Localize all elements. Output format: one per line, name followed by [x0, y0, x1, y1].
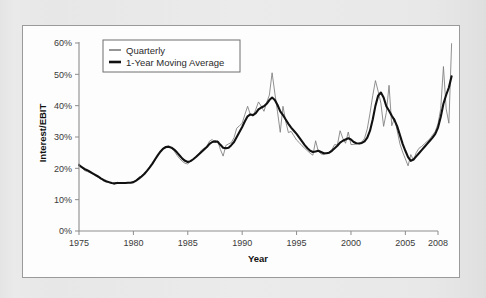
- x-tick-label: 1985: [178, 238, 198, 248]
- y-axis-ticks: 0%10%20%30%40%50%60%: [54, 38, 79, 236]
- x-axis-ticks: 19751980198519901995200020052008: [69, 231, 448, 248]
- y-tick-label: 50%: [54, 70, 72, 80]
- x-tick-label: 2008: [428, 238, 448, 248]
- y-tick-label: 10%: [54, 195, 72, 205]
- x-tick-label: 1975: [69, 238, 89, 248]
- y-tick-label: 60%: [54, 38, 72, 48]
- legend-label-quarterly: Quarterly: [126, 45, 165, 56]
- y-axis-title: Interest/EBIT: [37, 104, 48, 163]
- y-tick-label: 0%: [59, 226, 72, 236]
- y-tick-label: 20%: [54, 164, 72, 174]
- y-tick-label: 40%: [54, 101, 72, 111]
- x-tick-label: 2005: [395, 238, 415, 248]
- x-tick-label: 1980: [123, 238, 143, 248]
- x-tick-label: 1995: [287, 238, 307, 248]
- x-axis-title: Year: [248, 253, 268, 264]
- x-tick-label: 2000: [341, 238, 361, 248]
- y-tick-label: 30%: [54, 132, 72, 142]
- legend-label-moving-average: 1-Year Moving Average: [126, 57, 224, 68]
- series-line-moving-average: [79, 76, 452, 183]
- x-tick-label: 1990: [232, 238, 252, 248]
- interest-ebit-line-chart: 0%10%20%30%40%50%60% 1975198019851990199…: [0, 0, 486, 298]
- legend: Quarterly 1-Year Moving Average: [103, 40, 240, 72]
